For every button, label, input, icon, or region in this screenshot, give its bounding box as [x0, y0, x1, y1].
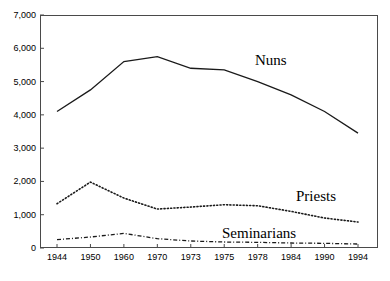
y-axis-tick-label: 4,000: [13, 110, 36, 120]
y-axis: 7,0006,0005,0004,0003,0002,0001,0000: [0, 0, 36, 281]
y-axis-tick-label: 0: [31, 243, 36, 253]
y-axis-tick-label: 1,000: [13, 210, 36, 220]
x-axis-tick-label: 1973: [181, 252, 201, 262]
y-axis-tick-label: 6,000: [13, 43, 36, 53]
x-axis-tick-label: 1950: [80, 252, 100, 262]
y-axis-tick-label: 7,000: [13, 10, 36, 20]
series-line-nuns: [57, 57, 358, 134]
series-label-priests: Priests: [296, 188, 336, 205]
x-axis-tick-label: 1994: [348, 252, 368, 262]
series-line-seminarians: [57, 233, 358, 244]
plot-area: [40, 15, 378, 248]
x-axis-tick-label: 1970: [147, 252, 167, 262]
x-axis-tick-label: 1944: [47, 252, 67, 262]
y-axis-tick-label: 5,000: [13, 77, 36, 87]
x-axis-tick-label: 1978: [248, 252, 268, 262]
line-chart: 7,0006,0005,0004,0003,0002,0001,0000 194…: [0, 0, 390, 281]
x-axis: 1944195019601970197319751978198419901994: [40, 252, 378, 268]
x-axis-tick-label: 1990: [315, 252, 335, 262]
y-axis-tick-label: 3,000: [13, 143, 36, 153]
x-axis-tick-label: 1975: [214, 252, 234, 262]
x-axis-tick-label: 1984: [281, 252, 301, 262]
y-axis-tick-label: 2,000: [13, 176, 36, 186]
series-label-seminarians: Seminarians: [222, 225, 296, 242]
series-label-nuns: Nuns: [255, 52, 287, 69]
x-axis-tick-label: 1960: [114, 252, 134, 262]
